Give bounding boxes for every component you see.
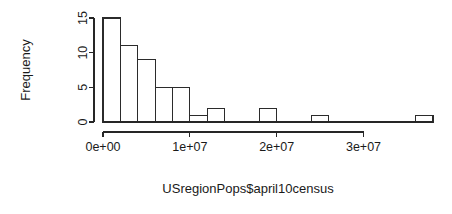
x-axis-tick-label: 2e+07 — [259, 140, 294, 154]
x-axis-tick-label: 0e+00 — [85, 140, 120, 154]
x-axis-tick-labels: 0e+001e+072e+073e+07 — [85, 140, 381, 154]
x-axis-title: USregionPops$april10census — [162, 181, 334, 196]
histogram-bar — [172, 87, 189, 122]
histogram-bar — [207, 108, 224, 122]
x-axis-tick-label: 3e+07 — [346, 140, 381, 154]
y-axis-tick-label: 10 — [76, 46, 90, 60]
histogram-canvas: 051015 0e+001e+072e+073e+07 Frequency US… — [0, 0, 452, 214]
y-axis-tick-labels: 051015 — [76, 11, 90, 125]
histogram-bar — [138, 60, 155, 122]
y-axis-title: Frequency — [18, 39, 33, 101]
x-axis-tick-label: 1e+07 — [172, 140, 207, 154]
histogram-bar — [190, 115, 207, 122]
histogram-bars — [103, 18, 433, 122]
x-axis — [103, 122, 433, 137]
y-axis-tick-label: 5 — [76, 84, 90, 91]
histogram-bar — [416, 115, 433, 122]
histogram-bar — [103, 18, 120, 122]
histogram-bar — [259, 108, 276, 122]
histogram-bar — [311, 115, 328, 122]
histogram-bar — [155, 87, 172, 122]
y-axis — [89, 18, 94, 122]
histogram-plot-panel: 051015 0e+001e+072e+073e+07 Frequency US… — [0, 0, 452, 214]
y-axis-tick-label: 0 — [76, 118, 90, 125]
y-axis-tick-label: 15 — [76, 11, 90, 25]
histogram-bar — [120, 46, 137, 122]
